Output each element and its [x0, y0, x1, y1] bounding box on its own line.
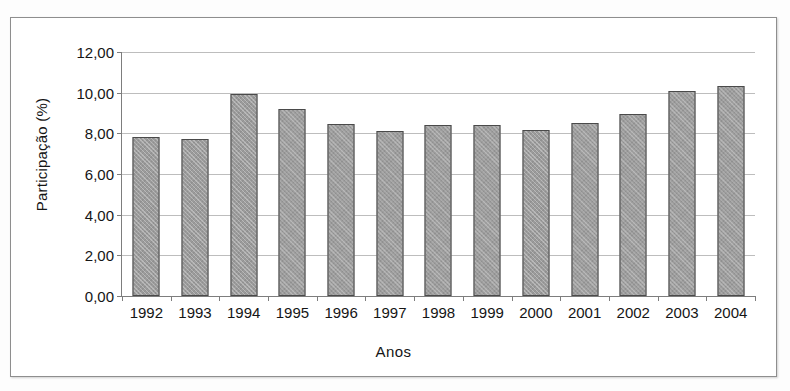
x-axis-tick	[268, 296, 269, 301]
bar-slot	[658, 52, 707, 296]
x-axis-tick-label: 1996	[324, 304, 357, 321]
bar	[279, 109, 306, 296]
x-axis-tick	[171, 296, 172, 301]
bar-slot	[414, 52, 463, 296]
y-axis-title: Participação (%)	[33, 45, 50, 265]
x-axis-tick	[122, 296, 123, 301]
x-axis-tick	[365, 296, 366, 301]
y-axis-tick-label: 8,00	[85, 125, 114, 142]
bar	[425, 125, 452, 296]
y-axis-tick-label: 2,00	[85, 247, 114, 264]
bar-slot	[365, 52, 414, 296]
bar-slot	[706, 52, 755, 296]
bar-slot	[268, 52, 317, 296]
bar-slot	[560, 52, 609, 296]
x-axis-tick-label: 2002	[617, 304, 650, 321]
x-axis-tick-label: 2000	[519, 304, 552, 321]
bar	[571, 123, 598, 296]
bar	[182, 139, 209, 296]
x-axis-tick-label: 2003	[665, 304, 698, 321]
x-axis-tick-label: 1993	[178, 304, 211, 321]
y-axis-tick-label: 10,00	[76, 84, 114, 101]
y-axis-tick-label: 0,00	[85, 288, 114, 305]
x-axis-tick-label: 1995	[276, 304, 309, 321]
bar	[328, 124, 355, 296]
x-axis-tick-label: 1997	[373, 304, 406, 321]
bar	[522, 130, 549, 296]
bar-slot	[171, 52, 220, 296]
bar-slot	[219, 52, 268, 296]
x-axis-tick-label: 1999	[471, 304, 504, 321]
bar	[133, 137, 160, 296]
bars-group	[122, 52, 755, 296]
x-axis-tick-label: 1998	[422, 304, 455, 321]
bar	[474, 125, 501, 296]
y-axis-tick-label: 12,00	[76, 44, 114, 61]
bar-slot	[317, 52, 366, 296]
bar	[376, 131, 403, 296]
y-axis-tick-label: 4,00	[85, 206, 114, 223]
plot-area: 0,002,004,006,008,0010,0012,00 199219931…	[121, 52, 755, 297]
x-axis-tick-label: 2001	[568, 304, 601, 321]
bar-slot	[122, 52, 171, 296]
x-axis-tick-label: 1994	[227, 304, 260, 321]
x-axis-tick-label: 2004	[714, 304, 747, 321]
y-axis-tick-label: 6,00	[85, 166, 114, 183]
bar-slot	[463, 52, 512, 296]
x-axis-title: Anos	[11, 343, 776, 360]
x-axis-tick	[560, 296, 561, 301]
bar-slot	[512, 52, 561, 296]
x-axis-tick	[658, 296, 659, 301]
x-axis-tick	[219, 296, 220, 301]
x-axis-tick	[414, 296, 415, 301]
x-axis-tick	[317, 296, 318, 301]
bar	[230, 94, 257, 296]
x-axis-tick	[463, 296, 464, 301]
bar	[668, 91, 695, 296]
chart-frame: Participação (%) 0,002,004,006,008,0010,…	[10, 17, 777, 377]
bar	[717, 86, 744, 296]
bar	[620, 114, 647, 296]
bar-slot	[609, 52, 658, 296]
figure-root: Participação (%) 0,002,004,006,008,0010,…	[0, 0, 790, 391]
x-axis-tick	[512, 296, 513, 301]
x-axis-tick	[755, 296, 756, 301]
x-axis-tick	[609, 296, 610, 301]
x-axis-tick-label: 1992	[130, 304, 163, 321]
x-axis-tick	[706, 296, 707, 301]
